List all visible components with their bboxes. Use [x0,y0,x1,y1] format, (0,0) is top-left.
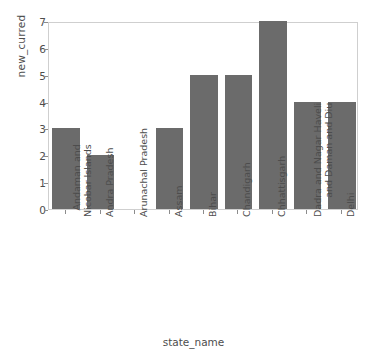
x-axis-tick-label: Bihar [207,192,218,217]
x-axis-tick-mark [65,210,66,214]
x-axis-tick-label: Assam [173,186,184,217]
x-axis-tick-mark [203,210,204,214]
x-axis-tick-mark [100,210,101,214]
x-axis-tick-label: Delhi [345,193,356,217]
y-axis-tick-label: 3 [0,122,46,136]
y-axis-tick-label: 7 [0,15,46,29]
y-axis-tick-label: 0 [0,203,46,217]
x-axis-tick-label: Dadra and Nagar Haveli and Daman and Diu [312,103,334,217]
y-axis-tick-label: 6 [0,42,46,56]
x-axis-tick-label: Andaman and Nicobar Islands [71,144,93,217]
x-axis-tick-mark [272,210,273,214]
y-axis-tick-label: 2 [0,149,46,163]
x-axis-tick-mark [306,210,307,214]
x-axis-tick-label: Chandigarh [241,162,252,217]
x-axis-tick-label: Andra Pradesh [104,148,115,217]
x-axis-tick-label: Arunachal Pradesh [138,128,149,217]
x-axis-tick-mark [237,210,238,214]
x-axis-tick-mark [169,210,170,214]
x-axis-tick-mark [341,210,342,214]
x-axis-tick-label: Chhattisgarh [276,156,287,217]
y-axis-tick-label: 4 [0,96,46,110]
x-axis-tick-mark [134,210,135,214]
y-axis-tick-label: 1 [0,176,46,190]
bar-chart-figure: new_curred 01234567 state_name Andaman a… [0,0,387,360]
y-axis-tick-mark [44,210,48,211]
y-axis-tick-label: 5 [0,69,46,83]
bar [190,75,218,209]
x-axis-title: state_name [0,336,387,348]
